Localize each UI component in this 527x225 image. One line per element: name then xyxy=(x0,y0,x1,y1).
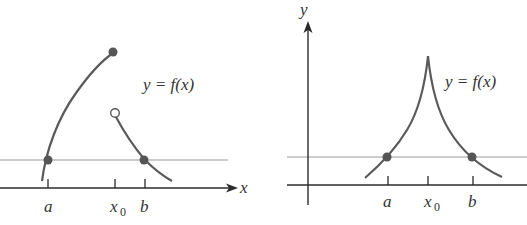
left-point-branch-end xyxy=(109,48,118,57)
right-tick-label-x0-subscript: 0 xyxy=(434,200,440,214)
right-panel: y a x 0 b y = f(x) xyxy=(287,0,527,214)
right-tick-label-a: a xyxy=(383,192,392,211)
left-point-open xyxy=(111,109,120,118)
left-curve-branch-1 xyxy=(42,53,113,181)
right-tick-label-x0: x xyxy=(423,192,432,211)
left-tick-label-x0: x xyxy=(109,197,118,216)
right-point-b xyxy=(468,153,477,162)
left-panel: x a x 0 b y = f(x) xyxy=(0,48,248,220)
left-tick-label-a: a xyxy=(44,197,53,216)
right-function-label: y = f(x) xyxy=(443,72,496,91)
figure: x a x 0 b y = f(x) y a x xyxy=(0,0,527,225)
left-function-label: y = f(x) xyxy=(141,75,194,94)
left-curve-branch-2 xyxy=(116,117,172,181)
left-point-b xyxy=(140,156,149,165)
left-point-a xyxy=(44,156,53,165)
left-tick-label-x0-subscript: 0 xyxy=(120,205,126,219)
right-tick-label-b: b xyxy=(468,192,477,211)
right-y-axis-label: y xyxy=(298,0,308,19)
right-point-a xyxy=(383,153,392,162)
left-tick-label-b: b xyxy=(140,197,149,216)
left-x-axis-label: x xyxy=(239,178,248,197)
